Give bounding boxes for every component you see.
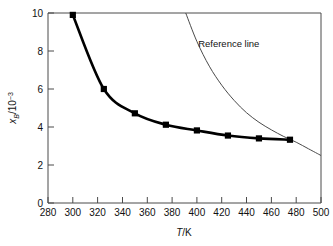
x-tick-label-420: 420 <box>213 207 230 218</box>
x-tick-label-480: 480 <box>288 207 305 218</box>
svg-text:xB/10−3: xB/10−3 <box>7 92 20 125</box>
y-axis-title-exponent: −3 <box>7 92 14 100</box>
x-axis-tick-labels: 280 300 320 340 360 380 400 420 440 460 … <box>40 207 330 218</box>
y-tick-label-4: 4 <box>37 122 43 133</box>
x-tick-label-280: 280 <box>40 207 57 218</box>
plot-frame <box>48 13 321 203</box>
svg-text:T/K: T/K <box>176 227 192 238</box>
y-axis-title-mid: /10 <box>7 100 18 114</box>
y-tick-label-2: 2 <box>37 160 43 171</box>
x-axis-title-unit: /K <box>182 227 192 238</box>
reference-line-series <box>186 13 321 156</box>
solubility-vs-temperature-chart: 0 2 4 6 8 10 280 300 320 340 <box>0 0 333 246</box>
x-axis-ticks <box>48 197 321 203</box>
x-tick-label-440: 440 <box>238 207 255 218</box>
data-point-marker-475 <box>287 137 293 143</box>
data-point-marker-375 <box>163 122 169 128</box>
x-tick-label-340: 340 <box>114 207 131 218</box>
y-axis-ticks <box>48 13 54 203</box>
x-tick-label-500: 500 <box>313 207 330 218</box>
x-axis-title: T/K <box>176 227 192 238</box>
data-point-marker-325 <box>101 86 107 92</box>
reference-line-label: Reference line <box>198 38 259 49</box>
data-point-marker-425 <box>225 132 231 138</box>
y-axis-title: xB/10−3 <box>7 92 20 125</box>
x-tick-label-380: 380 <box>164 207 181 218</box>
x-tick-label-400: 400 <box>189 207 206 218</box>
data-point-marker-300 <box>70 12 76 18</box>
data-point-marker-450 <box>256 135 262 141</box>
y-tick-label-10: 10 <box>32 8 44 19</box>
y-tick-label-8: 8 <box>37 46 43 57</box>
x-tick-label-460: 460 <box>263 207 280 218</box>
reference-line-annotation: Reference line <box>198 38 259 49</box>
y-axis-tick-labels: 0 2 4 6 8 10 <box>32 8 44 209</box>
chart-container: 0 2 4 6 8 10 280 300 320 340 <box>0 0 333 246</box>
x-tick-label-360: 360 <box>139 207 156 218</box>
y-tick-label-6: 6 <box>37 84 43 95</box>
data-point-marker-400 <box>194 127 200 133</box>
data-point-marker-350 <box>132 110 138 116</box>
x-tick-label-300: 300 <box>64 207 81 218</box>
x-tick-label-320: 320 <box>89 207 106 218</box>
